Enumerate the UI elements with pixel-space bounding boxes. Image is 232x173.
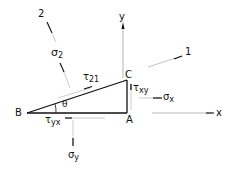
point-c-label: C	[125, 70, 132, 80]
sigma2-arrow-icon	[60, 63, 64, 72]
x-axis-label: x	[216, 108, 222, 118]
edge-bc	[27, 80, 127, 113]
diagram-lines	[0, 0, 232, 173]
tauyx-label: τyx	[45, 115, 61, 125]
stress-transformation-diagram: 2 σ2 τ21 y 1 C τxy σx B θ A x τyx σy	[0, 0, 232, 173]
tauxy-label: τxy	[133, 83, 149, 93]
sigma2-label: σ2	[51, 47, 63, 58]
tau21-label: τ21	[83, 72, 99, 82]
sigmay-label: σy	[68, 150, 79, 160]
axis-1-label: 1	[185, 47, 191, 57]
axis-2-arrow-icon	[47, 22, 52, 33]
y-axis-label: y	[119, 12, 125, 22]
point-a-label: A	[126, 115, 133, 125]
theta-label: θ	[62, 100, 68, 109]
theta-arc	[55, 104, 56, 113]
triangle-element	[27, 80, 127, 113]
point-b-label: B	[15, 108, 22, 118]
axis-1-arrow-icon	[174, 56, 182, 59]
sigmax-label: σx	[163, 92, 174, 102]
axis-2-label: 2	[38, 9, 44, 19]
y-axis-arrow-icon	[122, 22, 125, 29]
